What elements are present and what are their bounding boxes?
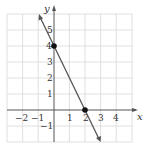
- y-tick: 4: [46, 41, 52, 51]
- x-tick: 2: [83, 113, 89, 123]
- x-tick: 3: [98, 113, 104, 123]
- x-tick-labels: −2 −1 1 2 3 4: [15, 113, 119, 123]
- y-axis-arrow-icon: [52, 5, 56, 11]
- x-tick: 4: [113, 113, 119, 123]
- point-x-intercept: [82, 107, 88, 113]
- y-axis-label: y: [43, 3, 50, 14]
- x-tick: −2: [15, 113, 28, 123]
- y-tick: 3: [47, 57, 53, 67]
- x-axis: [7, 108, 138, 112]
- y-tick: −1: [40, 121, 53, 131]
- x-axis-label: x: [137, 111, 143, 122]
- point-y-intercept: [51, 43, 57, 49]
- x-tick: 1: [67, 113, 73, 123]
- coordinate-plane: x y −2 −1 1 2 3 4 −1 1 2 3 4 5: [0, 0, 151, 159]
- y-tick: 1: [47, 89, 53, 99]
- y-tick: 2: [47, 73, 53, 83]
